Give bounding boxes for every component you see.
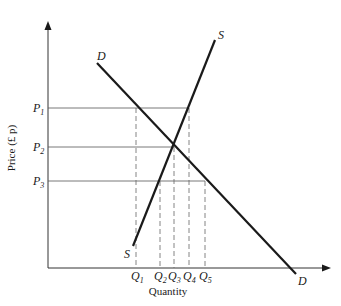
supply-label-top: S xyxy=(218,28,224,42)
p3-label: P3 xyxy=(32,174,44,190)
supply-demand-diagram: D D S S P1 P2 P3 Q1 Q2 Q3 Q4 Q5 Quantity… xyxy=(0,0,341,306)
p2-label: P2 xyxy=(32,140,44,156)
axes xyxy=(45,21,332,272)
demand-label-bottom: D xyxy=(297,274,307,288)
y-axis-arrow-icon xyxy=(45,21,52,30)
price-labels: P1 P2 P3 xyxy=(32,101,44,190)
supply-label-bottom: S xyxy=(124,247,130,261)
x-axis-title: Quantity xyxy=(149,285,188,297)
q4-label: Q4 xyxy=(183,269,196,285)
q1-label: Q1 xyxy=(131,269,144,285)
demand-label-top: D xyxy=(96,49,106,63)
p1-label: P1 xyxy=(32,101,44,117)
q3-label: Q3 xyxy=(168,269,181,285)
y-axis-title: Price (£ p) xyxy=(5,124,18,171)
quantity-guides xyxy=(136,108,205,268)
price-guides xyxy=(48,108,205,181)
x-axis-arrow-icon xyxy=(322,265,331,272)
q5-label: Q5 xyxy=(199,269,212,285)
q2-label: Q2 xyxy=(154,269,167,285)
quantity-labels: Q1 Q2 Q3 Q4 Q5 xyxy=(131,269,212,285)
demand-curve xyxy=(97,63,296,274)
